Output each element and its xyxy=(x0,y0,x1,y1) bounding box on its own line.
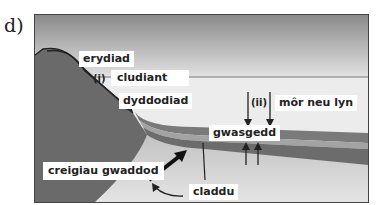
label-deposition: dyddodiad xyxy=(119,93,192,109)
label-sedimentary-rocks: creigiau gwaddod xyxy=(43,162,164,180)
label-step-ii: (ii) xyxy=(251,97,267,108)
figure-part-label: d) xyxy=(4,14,24,36)
label-step-i: (i) xyxy=(93,73,106,84)
label-sea-or-lake: môr neu lyn xyxy=(275,95,357,111)
label-erosion: erydiad xyxy=(79,51,134,67)
rock-cycle-diagram: erydiad (i) cludiant dyddodiad (ii) môr … xyxy=(34,14,369,203)
label-transport: cludiant xyxy=(111,70,189,86)
label-compaction: gwasgedd xyxy=(209,125,280,141)
label-burial: claddu xyxy=(189,184,238,200)
